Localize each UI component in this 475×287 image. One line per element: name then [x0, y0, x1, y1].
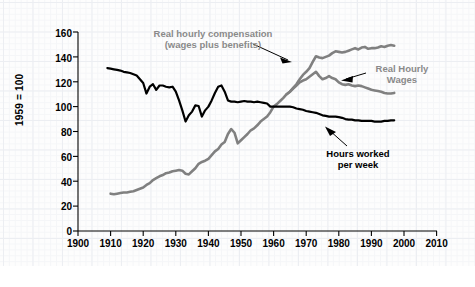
annotation-wages-line1: Real Hourly [368, 63, 436, 74]
annotation-compensation-line2: (wages plus benefits) [143, 39, 283, 50]
annotation-arrow-hours [325, 127, 347, 147]
annotation-wages-line2: Wages [368, 74, 436, 85]
chart-page: 1959 = 100 160 140 120 100 80 60 40 20 0… [0, 0, 475, 287]
y-axis-ticks [73, 32, 78, 231]
annotation-hours-line1: Hours worked [316, 148, 400, 159]
annotation-real-hourly-wages: Real Hourly Wages [368, 63, 436, 85]
annotation-real-hourly-compensation: Real hourly compensation (wages plus ben… [143, 28, 283, 50]
annotation-compensation-line1: Real hourly compensation [143, 28, 283, 39]
annotation-hours-worked-per-week: Hours worked per week [316, 148, 400, 170]
series-hours-worked-per-week [107, 68, 394, 121]
annotation-arrow-wages [341, 73, 366, 83]
x-axis-ticks [78, 231, 437, 236]
annotation-hours-line2: per week [316, 159, 400, 170]
